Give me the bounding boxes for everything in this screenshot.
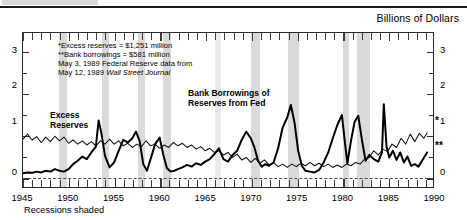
x-axis-label-1970: 1970	[231, 192, 271, 203]
series-label-excess-line1: Excess	[50, 110, 80, 120]
x-axis-label-1985: 1985	[368, 192, 408, 203]
note-line-4: May 12, 1989 Wall Street Journal	[58, 68, 170, 77]
units-label: Billions of Dollars	[377, 12, 459, 24]
x-axis-label-1945: 1945	[2, 192, 42, 203]
note-line-3: May 3, 1989 Federal Reserve data from	[58, 59, 192, 68]
y-axis-label-right-0: 0	[440, 166, 455, 177]
excess-reserves-line	[23, 133, 427, 168]
x-axis-label-1960: 1960	[139, 192, 179, 203]
recessions-shaded-note: Recessions shaded	[24, 205, 104, 215]
series-label-excess-line2: Reserves	[50, 120, 88, 130]
y-axis-label-left-1: 1	[2, 115, 17, 126]
y-axis-label-right-2: 2	[440, 79, 455, 90]
x-axis-label-1990: 1990	[414, 192, 454, 203]
endmark-bank-borrowings: **	[435, 142, 443, 150]
series-label-borrow-line2: Reserves from Fed	[188, 98, 265, 108]
x-axis-label-1950: 1950	[48, 192, 88, 203]
y-axis-label-left-3: 3	[2, 44, 17, 55]
header-rule	[0, 6, 467, 8]
series-label-bank-borrowings: Bank Borrowings of Reserves from Fed	[188, 88, 270, 108]
series-label-borrow-line1: Bank Borrowings of	[188, 88, 270, 98]
x-axis-label-1965: 1965	[185, 192, 225, 203]
y-axis-label-left-0: 0	[2, 166, 17, 177]
x-axis-label-1980: 1980	[322, 192, 362, 203]
endmark-excess-reserves: *	[435, 117, 439, 125]
note-line-1: *Excess reserves = $1,251 million	[58, 41, 172, 50]
y-axis-label-right-3: 3	[440, 44, 455, 55]
note-line-2: **Bank borrowings = $581 million	[58, 50, 170, 59]
note-line-4-publication: Wall Street Journal	[106, 68, 170, 77]
cropped-title-fragment	[2, 0, 98, 5]
x-axis-label-1975: 1975	[277, 192, 317, 203]
x-axis-label-1955: 1955	[94, 192, 134, 203]
note-line-4-prefix: May 12, 1989	[58, 68, 106, 77]
y-axis-label-right-1: 1	[440, 115, 455, 126]
series-label-excess-reserves: Excess Reserves	[50, 110, 88, 130]
y-axis-label-left-2: 2	[2, 79, 17, 90]
